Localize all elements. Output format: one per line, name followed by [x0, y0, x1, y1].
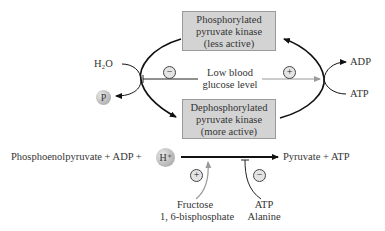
inhibitor-minus-icon: − [253, 169, 266, 182]
low-blood-glucose-label: Low blood glucose level [198, 67, 262, 91]
inhibitor-line: ATP [244, 199, 284, 211]
substrates-label: Phosphoenolpyruvate + ADP + [11, 151, 142, 163]
plus-sign-label: + [287, 66, 293, 77]
regulator-line: Low blood [198, 67, 262, 79]
box-line: pyruvate kinase [183, 26, 275, 38]
box-line: pyruvate kinase [183, 114, 275, 126]
proton-label: H⁺ [159, 152, 171, 163]
atp-alanine-label: ATP Alanine [244, 199, 284, 223]
inhibitor-line: Alanine [244, 211, 284, 223]
phosphorylated-pyruvate-kinase-box: Phosphorylated pyruvate kinase (less act… [182, 11, 276, 51]
box-line: (less active) [183, 38, 275, 50]
atp-label: ATP [350, 88, 369, 100]
regulator-line: glucose level [198, 79, 262, 91]
plus-sign-icon: + [283, 66, 296, 79]
minus-sign-icon: − [163, 66, 176, 79]
phosphate-label: P [101, 92, 107, 103]
inhibitor-sign-label: − [257, 169, 263, 180]
box-line: (more active) [183, 126, 275, 138]
phosphate-ball-icon: P [96, 90, 111, 105]
water-label: H₂O [94, 58, 113, 70]
activator-line: Fructose [160, 199, 230, 211]
box-line: Dephosphorylated [183, 102, 275, 114]
fructose-bisphosphate-label: Fructose 1, 6-bisphosphate [160, 199, 230, 223]
proton-ball-icon: H⁺ [156, 148, 175, 167]
products-label: Pyruvate + ATP [283, 151, 350, 163]
activator-plus-icon: + [190, 169, 203, 182]
minus-sign-label: − [167, 66, 173, 77]
dephosphorylated-pyruvate-kinase-box: Dephosphorylated pyruvate kinase (more a… [182, 99, 276, 139]
activator-line: 1, 6-bisphosphate [160, 211, 230, 223]
box-line: Phosphorylated [183, 14, 275, 26]
activator-sign-label: + [194, 169, 200, 180]
adp-label: ADP [350, 56, 371, 68]
